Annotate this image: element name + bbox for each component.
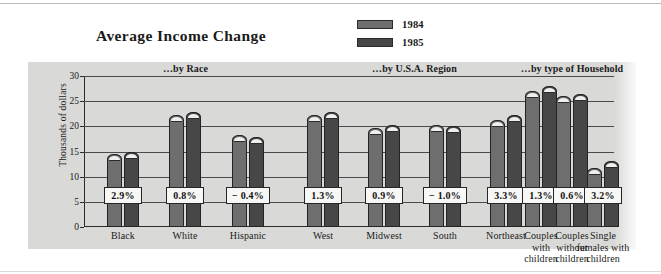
section-caption: …by Race <box>163 63 208 74</box>
bar-1985 <box>446 126 461 227</box>
y-tick-label: 10 <box>70 172 80 182</box>
bar-1984 <box>169 115 184 227</box>
x-tick-label: White <box>152 230 218 242</box>
bar-cap <box>575 96 586 101</box>
chart-title: Average Income Change <box>96 27 266 45</box>
bar-1985 <box>507 115 522 227</box>
bar-group <box>107 76 139 227</box>
chart-panel: Thousands of dollars 0510152025302.9%Bla… <box>28 62 636 249</box>
y-axis-title: Thousands of dollars <box>58 50 68 200</box>
percent-change-badge: 3.3% <box>487 187 525 204</box>
bar-1984 <box>525 91 540 227</box>
bar-1984 <box>490 120 505 227</box>
bar-cap <box>387 127 398 132</box>
bar-cap <box>589 170 600 175</box>
bar-group <box>232 76 264 227</box>
x-tick-label: South <box>412 230 478 242</box>
y-tick-label: 20 <box>70 121 80 131</box>
x-tick-label: Single females with children <box>570 230 636 265</box>
chart-legend: 19841985 <box>357 17 477 53</box>
bar-1985 <box>186 112 201 227</box>
percent-change-badge: 2.9% <box>104 187 142 204</box>
bar-group <box>587 76 619 227</box>
y-tick-mark <box>80 202 84 203</box>
bar-cap <box>558 98 569 103</box>
x-tick-label: Midwest <box>351 230 417 242</box>
bar-group <box>556 76 588 227</box>
y-tick-label: 25 <box>70 96 80 106</box>
x-tick-label: West <box>290 230 356 242</box>
bar-group <box>307 76 339 227</box>
bar-cap <box>606 163 617 168</box>
plot-area: 0510152025302.9%Black0.8%White− 0.4%Hisp… <box>84 76 614 227</box>
y-tick-label: 0 <box>74 222 79 232</box>
legend-label: 1985 <box>402 37 424 48</box>
income-change-figure: Average Income Change 19841985 Thousands… <box>0 0 661 274</box>
percent-change-badge: 1.3% <box>304 187 342 204</box>
bar-1984 <box>368 128 383 227</box>
y-tick-mark <box>80 126 84 127</box>
bar-1985 <box>249 137 264 227</box>
bar-group <box>429 76 461 227</box>
bar-cap <box>171 117 182 122</box>
bar-1985 <box>324 112 339 227</box>
bar-cap <box>251 139 262 144</box>
section-caption: …by type of Household <box>521 63 623 74</box>
x-tick-label: Hispanic <box>215 230 281 242</box>
bar-cap <box>509 117 520 122</box>
percent-change-badge: − 1.0% <box>423 187 467 204</box>
bar-1985 <box>573 94 588 227</box>
bar-cap <box>326 114 337 119</box>
legend-swatch-icon <box>357 20 393 29</box>
section-caption: …by U.S.A. Region <box>372 63 457 74</box>
bar-1984 <box>556 96 571 227</box>
y-tick-label: 15 <box>70 147 80 157</box>
percent-change-badge: − 0.4% <box>226 187 270 204</box>
y-tick-mark <box>80 177 84 178</box>
bar-group <box>525 76 557 227</box>
bar-cap <box>234 137 245 142</box>
percent-change-badge: 0.9% <box>365 187 403 204</box>
bar-group <box>490 76 522 227</box>
y-tick-mark <box>80 152 84 153</box>
y-tick-mark <box>80 227 84 228</box>
bar-cap <box>370 130 381 135</box>
bar-cap <box>109 156 120 161</box>
legend-item-1985: 1985 <box>357 35 477 49</box>
bar-cap <box>188 114 199 119</box>
bar-1984 <box>232 135 247 227</box>
page-top-rule <box>0 3 661 4</box>
legend-label: 1984 <box>402 19 424 30</box>
x-tick-label: Black <box>90 230 156 242</box>
bar-cap <box>492 122 503 127</box>
bar-group <box>368 76 400 227</box>
legend-item-1984: 1984 <box>357 17 477 31</box>
percent-change-badge: 3.2% <box>584 187 622 204</box>
bar-1984 <box>429 125 444 227</box>
bar-cap <box>431 127 442 132</box>
y-tick-mark <box>80 76 84 77</box>
bar-1985 <box>542 86 557 227</box>
page-bottom-rule <box>0 271 661 272</box>
y-tick-mark <box>80 101 84 102</box>
legend-swatch-icon <box>357 38 393 47</box>
bar-1984 <box>307 115 322 227</box>
bar-cap <box>527 93 538 98</box>
y-tick-label: 5 <box>74 197 79 207</box>
bar-cap <box>448 128 459 133</box>
bar-cap <box>309 117 320 122</box>
percent-change-badge: 0.8% <box>166 187 204 204</box>
bar-group <box>169 76 201 227</box>
bar-cap <box>126 154 137 159</box>
bar-cap <box>544 88 555 93</box>
y-tick-label: 30 <box>70 71 80 81</box>
bar-1985 <box>385 125 400 227</box>
